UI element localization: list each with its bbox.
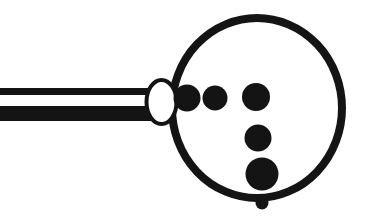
handle-top-stripe xyxy=(0,88,162,95)
handle-interior xyxy=(0,95,162,106)
dot-2 xyxy=(203,86,228,111)
artwork-svg xyxy=(0,0,376,216)
handle-bar xyxy=(0,88,162,121)
dot-6 xyxy=(256,197,269,210)
dot-4 xyxy=(245,125,272,152)
dot-1 xyxy=(174,85,201,112)
dot-3 xyxy=(242,83,270,111)
joint-ellipse xyxy=(147,80,177,124)
dot-5 xyxy=(246,158,279,191)
handle-bottom-stripe xyxy=(0,106,162,121)
illustration-canvas: Magnifier with dots xyxy=(0,0,376,216)
